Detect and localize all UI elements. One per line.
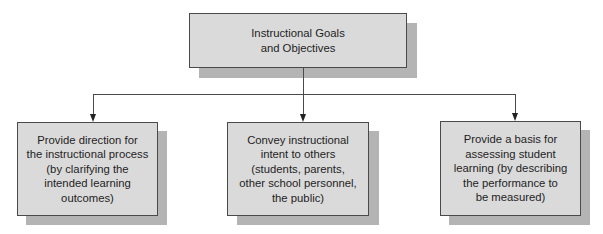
child-node-convey-intent: Convey instructional intent to others (s… — [227, 122, 369, 216]
root-node-instructional-goals: Instructional Goals and Objectives — [189, 13, 407, 68]
child-node-provide-direction: Provide direction for the instructional … — [17, 122, 158, 216]
arrow-head-child-1 — [90, 114, 96, 122]
connector-to-child-3 — [515, 94, 516, 115]
arrow-head-child-2 — [300, 114, 306, 122]
child-node-3-label: Provide a basis for assessing student le… — [454, 132, 568, 205]
arrow-head-child-3 — [512, 113, 518, 121]
child-node-1-label: Provide direction for the instructional … — [27, 133, 149, 206]
child-node-provide-basis: Provide a basis for assessing student le… — [440, 121, 581, 216]
root-stem-connector — [303, 68, 304, 94]
connector-to-child-1 — [93, 94, 94, 116]
root-node-label: Instructional Goals and Objectives — [251, 26, 345, 56]
connector-to-child-2 — [303, 94, 304, 116]
child-node-2-label: Convey instructional intent to others (s… — [239, 133, 356, 206]
horizontal-connector — [93, 94, 516, 95]
